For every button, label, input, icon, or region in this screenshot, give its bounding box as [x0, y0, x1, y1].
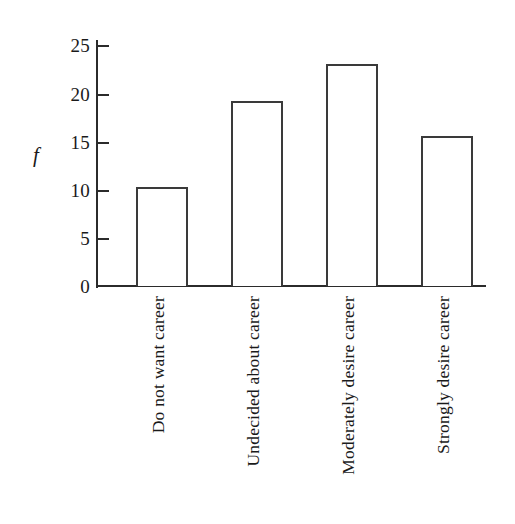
y-tick-5 [98, 238, 109, 240]
y-tick-label-25: 25 [46, 36, 90, 55]
y-tick-15 [98, 142, 109, 144]
y-tick-10 [98, 190, 109, 192]
y-tick-label-20: 20 [46, 85, 90, 104]
y-tick-label-5: 5 [46, 229, 90, 248]
bar-3 [421, 136, 473, 286]
x-category-label-1: Undecided about career [242, 296, 264, 516]
y-tick-label-15: 15 [46, 133, 90, 152]
bar-chart: f 25 20 15 10 5 0 Do not want ca [0, 0, 515, 524]
y-tick-20 [98, 94, 109, 96]
y-tick-label-10: 10 [46, 181, 90, 200]
bar-1 [231, 101, 283, 286]
bar-0 [136, 187, 188, 286]
bar-2 [326, 64, 378, 286]
x-category-label-3: Strongly desire career [432, 296, 454, 516]
chart-page: f 25 20 15 10 5 0 Do not want ca [0, 0, 515, 524]
y-axis-line [96, 40, 98, 288]
x-category-label-2: Moderately desire career [337, 296, 359, 516]
y-tick-25 [98, 45, 109, 47]
y-tick-label-0: 0 [46, 277, 90, 296]
x-category-label-0: Do not want career [147, 296, 169, 516]
